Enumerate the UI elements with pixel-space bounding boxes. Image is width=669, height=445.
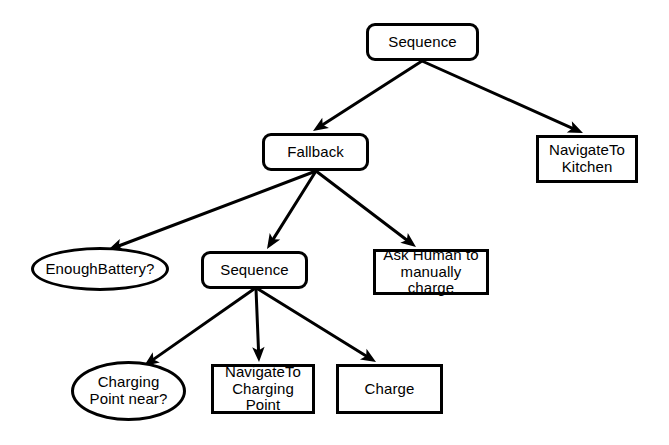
node-navigate-to-kitchen-label: NavigateTo Kitchen xyxy=(547,142,627,176)
node-sequence-root-label: Sequence xyxy=(386,34,458,51)
node-navigate-to-charging-point-label: NavigateTo Charging Point xyxy=(214,364,312,414)
edge-root-sequence-to-fallback xyxy=(313,61,422,131)
node-ask-human-to-manually-charge-label: Ask Human to manually charge xyxy=(376,247,486,297)
node-sequence-charging[interactable]: Sequence xyxy=(201,251,308,289)
node-sequence-charging-label: Sequence xyxy=(218,262,290,279)
arrowhead-icon xyxy=(267,233,280,249)
edge-sequence-to-charging-point-near xyxy=(144,289,254,366)
edge-sequence-to-navigate-charging-point xyxy=(252,289,264,362)
edge-root-sequence-to-navigate-kitchen xyxy=(422,61,583,133)
node-navigate-to-kitchen[interactable]: NavigateTo Kitchen xyxy=(536,135,638,183)
node-charging-point-near[interactable]: Charging Point near? xyxy=(71,361,186,421)
node-fallback-label: Fallback xyxy=(285,144,346,161)
behavior-tree-diagram: SequenceFallbackNavigateTo KitchenEnough… xyxy=(0,0,669,445)
node-charge-label: Charge xyxy=(363,381,417,398)
arrowhead-icon xyxy=(313,118,329,131)
edge-fallback-to-enough-battery xyxy=(108,171,316,250)
edge-fallback-to-ask-human xyxy=(316,171,416,247)
node-charge[interactable]: Charge xyxy=(336,364,443,414)
node-sequence-root[interactable]: Sequence xyxy=(366,23,479,61)
node-ask-human-to-manually-charge[interactable]: Ask Human to manually charge xyxy=(373,249,489,295)
edge-sequence-to-charge xyxy=(258,289,376,362)
node-enough-battery[interactable]: EnoughBattery? xyxy=(31,247,169,291)
node-enough-battery-label: EnoughBattery? xyxy=(44,261,157,278)
edge-fallback-to-sequence xyxy=(267,171,316,249)
node-charging-point-near-label: Charging Point near? xyxy=(88,374,170,408)
arrowhead-icon xyxy=(360,349,376,362)
node-fallback[interactable]: Fallback xyxy=(262,133,369,171)
node-navigate-to-charging-point[interactable]: NavigateTo Charging Point xyxy=(211,364,315,414)
